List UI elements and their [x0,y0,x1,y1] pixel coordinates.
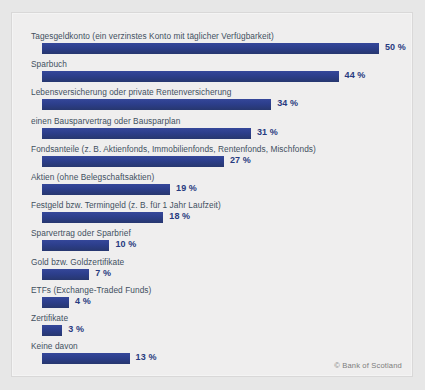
bar-fill [42,212,163,223]
bar-row: Fondsanteile (z. B. Aktienfonds, Immobil… [30,144,408,172]
bar-fill [42,269,89,280]
bar-track: 50 % [30,43,408,54]
bar-row: Sparbuch44 % [30,59,408,87]
bar-row: Tagesgeldkonto (ein verzinstes Konto mit… [30,31,408,59]
bar-value-label: 27 % [230,155,251,165]
bar-fill [42,71,339,82]
bar-track: 44 % [30,71,408,82]
bar-track: 19 % [30,184,408,195]
bar-category-label: Sparbuch [31,59,67,70]
bar-category-label: Lebensversicherung oder private Rentenve… [31,87,231,98]
bar-row: Lebensversicherung oder private Rentenve… [30,87,408,115]
bar-value-label: 7 % [95,268,111,278]
bar-track: 4 % [30,297,408,308]
bar-value-label: 4 % [75,296,91,306]
bar-track: 31 % [30,128,408,139]
bar-fill [42,353,130,364]
bar-category-label: Aktien (ohne Belegschaftsaktien) [31,172,154,183]
bar-value-label: 13 % [136,352,157,362]
bar-category-label: ETFs (Exchange-Traded Funds) [31,285,151,296]
chart-panel: Tagesgeldkonto (ein verzinstes Konto mit… [11,12,413,377]
bar-track: 18 % [30,212,408,223]
bar-row: einen Bausparvertrag oder Bausparplan31 … [30,116,408,144]
bar-value-label: 19 % [176,183,197,193]
bar-track: 34 % [30,99,408,110]
bar-track: 10 % [30,240,408,251]
bar-value-label: 10 % [115,239,136,249]
bar-value-label: 3 % [68,324,84,334]
bar-category-label: Tagesgeldkonto (ein verzinstes Konto mit… [31,31,274,42]
bar-value-label: 18 % [169,211,190,221]
bar-row: Gold bzw. Goldzertifikate7 % [30,257,408,285]
bar-track: 7 % [30,269,408,280]
bar-category-label: Fondsanteile (z. B. Aktienfonds, Immobil… [31,144,316,155]
bar-fill [42,325,62,336]
bar-fill [42,99,271,110]
bar-row: ETFs (Exchange-Traded Funds)4 % [30,285,408,313]
bar-category-label: Sparvertrag oder Sparbrief [31,228,131,239]
bar-row: Aktien (ohne Belegschaftsaktien)19 % [30,172,408,200]
bar-track: 3 % [30,325,408,336]
bar-value-label: 34 % [277,98,298,108]
bar-fill [42,297,69,308]
bar-fill [42,43,379,54]
bar-category-label: Zertifikate [31,313,68,324]
bar-category-label: Gold bzw. Goldzertifikate [31,257,124,268]
bar-fill [42,184,170,195]
copyright-credit: © Bank of Scotland [334,361,402,370]
bar-category-label: einen Bausparvertrag oder Bausparplan [31,116,180,127]
bar-row: Festgeld bzw. Termingeld (z. B. für 1 Ja… [30,200,408,228]
bar-category-label: Keine davon [31,341,78,352]
bar-fill [42,240,109,251]
bar-fill [42,156,224,167]
bar-category-label: Festgeld bzw. Termingeld (z. B. für 1 Ja… [31,200,221,211]
bar-row: Sparvertrag oder Sparbrief10 % [30,228,408,256]
bar-value-label: 50 % [385,42,406,52]
bar-value-label: 44 % [345,70,366,80]
bar-fill [42,128,251,139]
bar-value-label: 31 % [257,127,278,137]
bar-track: 27 % [30,156,408,167]
bar-row: Zertifikate3 % [30,313,408,341]
